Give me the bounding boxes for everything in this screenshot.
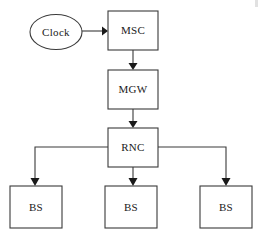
arrow-head-msc-to-mgw	[129, 63, 138, 70]
node-mgw[interactable]: MGW	[108, 70, 158, 109]
node-mgw-label: MGW	[118, 83, 147, 95]
edge-line-rnc-to-bs-left	[35, 147, 108, 179]
edge-clock-to-msc	[82, 27, 108, 36]
arrow-head-rnc-to-bs-right	[222, 178, 231, 186]
node-bs-center-label: BS	[124, 201, 138, 213]
node-rnc[interactable]: RNC	[108, 128, 158, 167]
node-bs-left[interactable]: BS	[10, 186, 62, 228]
edge-rnc-to-bs-left	[31, 147, 109, 186]
node-group: Clock MSC MGW RNC BS	[10, 11, 252, 228]
node-clock[interactable]: Clock	[30, 15, 82, 50]
edge-rnc-to-bs-center	[129, 167, 138, 186]
diagram-canvas: Clock MSC MGW RNC BS	[0, 0, 259, 233]
edge-msc-to-mgw	[129, 50, 138, 70]
node-bs-right[interactable]: BS	[200, 186, 252, 228]
node-rnc-label: RNC	[121, 141, 145, 153]
arrow-head-rnc-to-bs-center	[129, 178, 138, 186]
arrow-head-rnc-to-bs-left	[31, 178, 40, 186]
arrow-head-mgw-to-rnc	[129, 121, 138, 128]
arrow-head-clock-to-msc	[102, 27, 108, 36]
node-clock-label: Clock	[42, 26, 70, 38]
block-diagram: Clock MSC MGW RNC BS	[0, 0, 259, 233]
node-msc-label: MSC	[121, 24, 145, 36]
node-bs-left-label: BS	[29, 201, 43, 213]
edge-line-rnc-to-bs-right	[158, 147, 226, 179]
node-msc[interactable]: MSC	[108, 11, 158, 50]
node-bs-center[interactable]: BS	[105, 186, 157, 228]
scan-artifact-mark	[255, 0, 258, 7]
edge-mgw-to-rnc	[129, 109, 138, 128]
node-bs-right-label: BS	[219, 201, 233, 213]
edge-rnc-to-bs-right	[158, 147, 231, 186]
